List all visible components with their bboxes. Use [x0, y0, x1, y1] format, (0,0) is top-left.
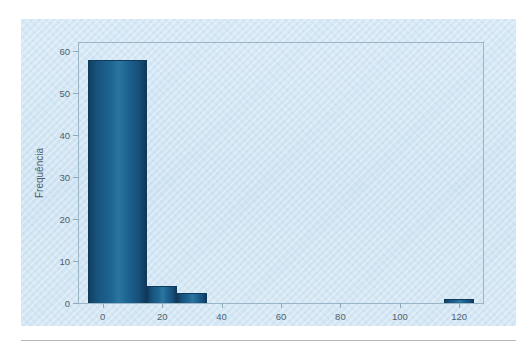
bars-layer — [79, 43, 483, 303]
histogram-bar — [88, 60, 147, 303]
histogram-bar — [147, 286, 177, 303]
histogram-figure-panel: Frequência 0102030405060 020406080100120 — [21, 19, 516, 326]
y-axis-tick — [73, 93, 79, 94]
y-axis-title: Frequência — [34, 147, 45, 197]
y-axis-tick-label: 60 — [59, 46, 70, 57]
footer-divider — [21, 340, 516, 341]
plot-area: 0102030405060 020406080100120 — [78, 42, 484, 304]
x-axis-tick-label: 120 — [451, 311, 467, 322]
x-axis-tick-label: 100 — [392, 311, 408, 322]
x-axis-tick — [400, 303, 401, 308]
y-axis-tick-label: 20 — [59, 214, 70, 225]
y-axis-tick-label: 50 — [59, 88, 70, 99]
y-axis-tick — [73, 303, 79, 304]
y-axis-tick-label: 0 — [65, 298, 70, 309]
x-axis-tick-label: 40 — [216, 311, 227, 322]
x-axis-tick-label: 20 — [157, 311, 168, 322]
x-axis-tick-label: 80 — [335, 311, 346, 322]
x-axis-tick — [459, 303, 460, 308]
clipped-header-text — [0, 0, 529, 10]
y-axis-tick-label: 40 — [59, 130, 70, 141]
y-axis-tick — [73, 177, 79, 178]
histogram-bar — [177, 293, 207, 303]
x-axis-tick — [162, 303, 163, 308]
y-axis-tick — [73, 261, 79, 262]
x-axis-tick — [281, 303, 282, 308]
x-axis-tick — [340, 303, 341, 308]
y-axis-tick — [73, 51, 79, 52]
y-axis-tick — [73, 219, 79, 220]
y-axis-tick-label: 30 — [59, 172, 70, 183]
y-axis-tick — [73, 135, 79, 136]
x-axis-tick-label: 0 — [100, 311, 105, 322]
y-axis-tick-label: 10 — [59, 256, 70, 267]
x-axis-tick — [103, 303, 104, 308]
x-axis-tick — [222, 303, 223, 308]
x-axis-tick-label: 60 — [276, 311, 287, 322]
